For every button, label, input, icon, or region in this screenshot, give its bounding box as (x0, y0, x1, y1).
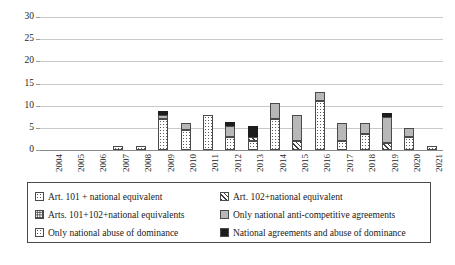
bar-segment (248, 137, 258, 141)
x-axis-tick-label: 2020 (413, 154, 422, 172)
legend-item-label: Art. 102+national equivalent (233, 192, 343, 202)
legend-item-label: National agreements and abuse of dominan… (233, 228, 406, 238)
legend-item[interactable]: Art. 101 + national equivalent (35, 192, 162, 202)
bar-segment (203, 115, 213, 150)
x-axis-tick-label: 2014 (279, 154, 288, 172)
bar-segment (292, 115, 302, 142)
bar-column (225, 17, 235, 150)
legend-item[interactable]: Art. 102+national equivalent (220, 192, 343, 202)
x-axis-tick-label: 2009 (167, 154, 176, 172)
bar-column (404, 17, 414, 150)
bar-segment (360, 134, 370, 150)
x-axis-tick-label: 2005 (77, 154, 86, 172)
bar-segment (158, 119, 168, 150)
bar-segment (360, 123, 370, 134)
bar-column (337, 17, 347, 150)
x-axis-tick-label: 2004 (55, 154, 64, 172)
bar-segment (337, 141, 347, 150)
bar-column (203, 17, 213, 150)
x-axis-tick-label: 2013 (256, 154, 265, 172)
bar-segment (382, 143, 392, 150)
bar-segment (158, 111, 168, 115)
bar-segment (382, 113, 392, 117)
legend-item[interactable]: National agreements and abuse of dominan… (220, 228, 406, 238)
bar-segment (248, 126, 258, 137)
legend-row: Only national abuse of dominanceNational… (28, 223, 432, 242)
bar-column (136, 17, 146, 150)
bar-segment (315, 92, 325, 101)
stacked-bar-chart: 051015202530 200420052006200720082009201… (0, 0, 455, 265)
bar-segment (225, 126, 235, 137)
bar-segment (225, 137, 235, 150)
bar-segment (427, 146, 437, 150)
bar-column (427, 17, 437, 150)
y-axis-tick-label: 25 (10, 34, 34, 44)
legend-swatch-icon (35, 192, 44, 201)
bar-column (270, 17, 280, 150)
legend-swatch-icon (220, 228, 229, 237)
bar-column (315, 17, 325, 150)
y-axis-tick-label: 0 (10, 145, 34, 155)
legend-row: Arts. 101+102+national equivalentsOnly n… (28, 205, 432, 224)
bar-segment (225, 122, 235, 126)
bar-column (248, 17, 258, 150)
bars-layer (40, 0, 443, 180)
bar-column (113, 17, 123, 150)
bar-segment (337, 123, 347, 141)
bar-segment (270, 119, 280, 150)
legend-swatch-icon (220, 192, 229, 201)
y-axis-tick-label: 10 (10, 101, 34, 111)
legend-item-label: Arts. 101+102+national equivalents (48, 210, 185, 220)
legend-item[interactable]: Arts. 101+102+national equivalents (35, 210, 185, 220)
bar-segment (136, 146, 146, 150)
x-axis-tick-label: 2010 (189, 154, 198, 172)
y-axis-tick-label: 20 (10, 56, 34, 66)
legend-swatch-icon (35, 210, 44, 219)
x-axis-tick-label: 2018 (368, 154, 377, 172)
bar-segment (292, 141, 302, 150)
bar-segment (382, 117, 392, 144)
bar-segment (270, 103, 280, 119)
legend-row: Art. 101 + national equivalentArt. 102+n… (28, 187, 432, 206)
bar-column (360, 17, 370, 150)
x-axis-tick-label: 2017 (346, 154, 355, 172)
bar-segment (404, 137, 414, 150)
legend-swatch-icon (220, 210, 229, 219)
legend-item[interactable]: Only national abuse of dominance (35, 228, 178, 238)
y-axis-tick-label: 5 (10, 123, 34, 133)
bar-segment (248, 141, 258, 150)
plot-area: 051015202530 200420052006200720082009201… (0, 0, 455, 180)
bar-segment (113, 146, 123, 150)
bar-column (181, 17, 191, 150)
legend-item-label: Only national anti-competitive agreement… (233, 210, 395, 220)
x-axis-tick-label: 2012 (234, 154, 243, 172)
y-axis-tick-label: 30 (10, 12, 34, 22)
bar-column (158, 17, 168, 150)
bar-segment (158, 115, 168, 119)
bar-segment (315, 101, 325, 150)
x-axis-tick-label: 2007 (122, 154, 131, 172)
y-axis-tick-label: 15 (10, 79, 34, 89)
x-axis-tick-label: 2006 (99, 154, 108, 172)
legend-swatch-icon (35, 228, 44, 237)
bar-segment (181, 123, 191, 130)
bar-column (292, 17, 302, 150)
bar-segment (404, 128, 414, 137)
bar-column (382, 17, 392, 150)
x-axis-tick-label: 2016 (323, 154, 332, 172)
legend-item-label: Only national abuse of dominance (48, 228, 178, 238)
x-axis-tick-label: 2019 (391, 154, 400, 172)
x-axis-tick-label: 2011 (211, 154, 220, 172)
legend-item-label: Art. 101 + national equivalent (48, 192, 162, 202)
chart-legend: Art. 101 + national equivalentArt. 102+n… (27, 182, 431, 243)
legend-item[interactable]: Only national anti-competitive agreement… (220, 210, 395, 220)
x-axis-tick-label: 2008 (144, 154, 153, 172)
bar-segment (181, 130, 191, 150)
x-axis-tick-label: 2021 (435, 154, 444, 172)
x-axis-tick-label: 2015 (301, 154, 310, 172)
